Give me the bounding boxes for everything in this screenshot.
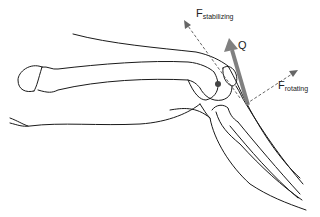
label-f-rotating: Frotating [278, 80, 308, 92]
label-f-rotating-sub: rotating [285, 85, 308, 92]
thigh-lower-outline [10, 104, 200, 126]
label-f-rotating-main: F [278, 79, 285, 91]
label-f-stabilizing: Fstabilizing [196, 8, 233, 20]
label-f-stabilizing-sub: stabilizing [203, 13, 234, 20]
femur-neck [34, 67, 42, 91]
tibia-front [238, 122, 300, 194]
label-f-stabilizing-main: F [196, 7, 203, 19]
femur-lower-edge [38, 79, 200, 92]
label-q: Q [238, 40, 247, 51]
condyle-center-dot [215, 81, 221, 87]
label-q-text: Q [238, 39, 247, 51]
knee-diagram [0, 0, 320, 217]
femoral-condyle [188, 72, 218, 100]
fibula [230, 126, 298, 198]
tibia-top [212, 105, 238, 122]
femur-upper-edge [42, 61, 214, 72]
